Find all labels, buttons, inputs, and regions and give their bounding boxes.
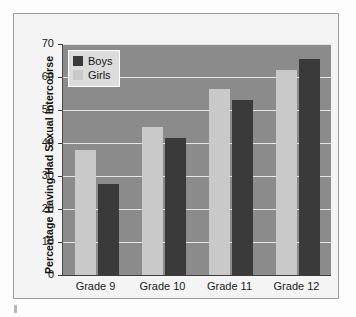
gridline [63, 44, 331, 45]
bar-boys-grade-11 [232, 100, 253, 275]
legend-swatch-girls-icon [73, 70, 83, 80]
legend-item-boys: Boys [73, 54, 112, 68]
legend-swatch-boys-icon [73, 56, 83, 66]
chart-legend: BoysGirls [68, 50, 120, 87]
bar-girls-grade-9 [75, 150, 96, 275]
bar-boys-grade-9 [98, 184, 119, 275]
bar-boys-grade-12 [299, 59, 320, 275]
page-background: Percentage Having Had Sexual Intercourse… [0, 0, 356, 317]
legend-label: Boys [88, 55, 112, 67]
legend-label: Girls [88, 69, 111, 81]
y-axis-title: Percentage Having Had Sexual Intercourse [43, 52, 55, 278]
page-corner-mark [14, 305, 17, 313]
legend-item-girls: Girls [73, 68, 112, 82]
bar-boys-grade-10 [165, 138, 186, 275]
bar-girls-grade-10 [142, 127, 163, 276]
bar-girls-grade-12 [276, 70, 297, 275]
bar-girls-grade-11 [209, 89, 230, 275]
